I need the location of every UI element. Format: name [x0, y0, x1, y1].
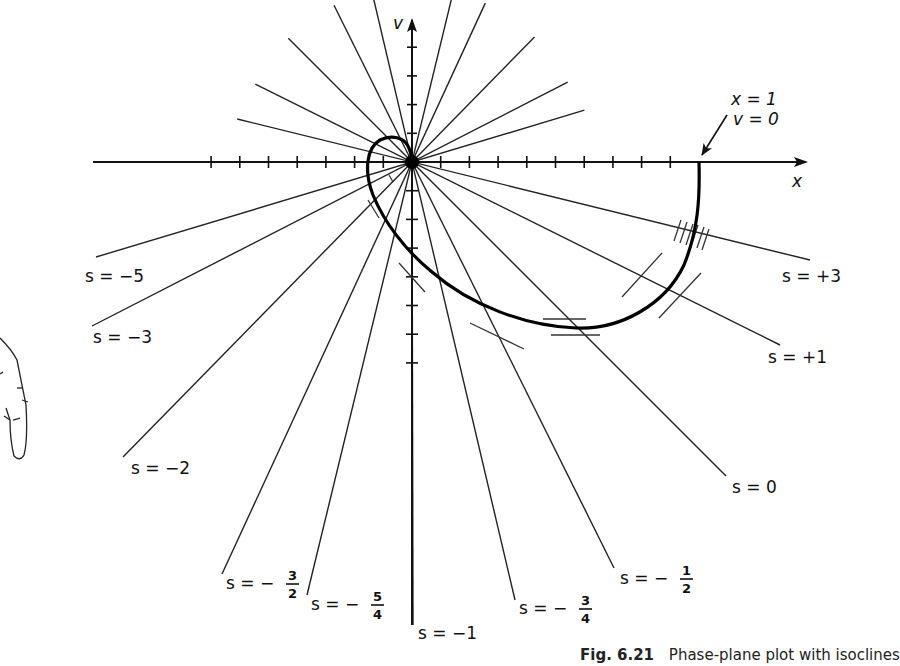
- isocline-s-minus-3-2: [222, 3, 485, 574]
- svg-text:4: 4: [581, 611, 590, 626]
- svg-text:2: 2: [288, 586, 297, 601]
- x-axis-label: x: [791, 171, 803, 191]
- isocline-label: s = −5: [85, 266, 144, 286]
- isocline-s-plus-3: [237, 119, 810, 260]
- svg-text:4: 4: [373, 607, 382, 622]
- origin-point: [405, 155, 419, 169]
- svg-text:s = +3: s = +3: [782, 266, 841, 286]
- isocline-s-plus-1: [255, 84, 780, 345]
- figure-caption: Fig. 6.21 Phase-plane plot with isocline…: [580, 646, 900, 664]
- annotation-v: v = 0: [733, 109, 779, 129]
- isocline-label: s = +1: [768, 347, 827, 367]
- isocline-labels: s = +3s = +1s = 0s = −12s = −34s = −1s =…: [85, 266, 841, 643]
- isocline-label: s = −2: [131, 458, 190, 478]
- svg-text:s = −: s = −: [311, 594, 359, 614]
- svg-text:s = 0: s = 0: [732, 477, 777, 497]
- svg-text:3: 3: [581, 593, 590, 608]
- svg-text:s = −3: s = −3: [93, 327, 152, 347]
- isocline-label: s = +3: [782, 266, 841, 286]
- svg-text:s = −: s = −: [226, 573, 274, 593]
- isocline-label: s = −1: [418, 623, 477, 643]
- isocline-label: s = −12: [620, 563, 693, 596]
- svg-text:s = −: s = −: [620, 568, 668, 588]
- figure-number: Fig. 6.21: [580, 646, 654, 664]
- hand-sketch-icon: [0, 338, 28, 459]
- isocline-s-minus-5-4: [307, 0, 453, 595]
- isocline-s-minus-3-4: [372, 0, 515, 600]
- svg-text:s = −5: s = −5: [85, 266, 144, 286]
- svg-text:2: 2: [682, 581, 691, 596]
- isocline-label: s = −3: [93, 327, 152, 347]
- svg-text:1: 1: [682, 563, 691, 578]
- svg-text:s = +1: s = +1: [768, 347, 827, 367]
- annotation-x: x = 1: [730, 89, 777, 109]
- isocline-s-minus-1-2: [334, 5, 614, 568]
- caption-text: Phase-plane plot with isoclines: [669, 646, 900, 664]
- isocline-s-minus-2: [123, 37, 535, 457]
- isocline-lines: [92, 0, 810, 625]
- svg-text:5: 5: [373, 589, 382, 604]
- isocline-label: s = 0: [732, 477, 777, 497]
- isocline-label: s = −54: [311, 589, 384, 622]
- isocline-s-0: [288, 38, 726, 476]
- isocline-label: s = −32: [226, 568, 299, 601]
- isocline-label: s = −34: [519, 593, 592, 626]
- svg-text:s = −1: s = −1: [418, 623, 477, 643]
- svg-text:s = −2: s = −2: [131, 458, 190, 478]
- annotation-arrow: [702, 115, 727, 155]
- v-axis-label: v: [393, 13, 404, 33]
- svg-text:3: 3: [288, 568, 297, 583]
- axis-ticks: [211, 47, 670, 363]
- svg-text:s = −: s = −: [519, 598, 567, 618]
